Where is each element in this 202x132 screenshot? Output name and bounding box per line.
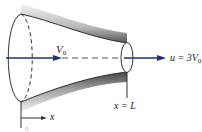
origin-label: 0: [25, 126, 28, 132]
x-axis-label: x: [50, 112, 54, 122]
outlet-velocity-subscript: 0: [198, 57, 202, 65]
inlet-velocity-label: V0: [56, 44, 66, 57]
x-axis-arrow-head-icon: [41, 116, 47, 120]
inlet-velocity-subscript: 0: [63, 49, 67, 57]
outlet-position-label: x = L: [114, 101, 136, 111]
outlet-velocity-label: u = 3V0: [170, 53, 201, 65]
nozzle-top-wall: [21, 4, 127, 43]
nozzle-bottom-wall: [21, 72, 127, 112]
inlet-velocity-symbol: V: [56, 43, 63, 55]
outlet-arrow-head-icon: [157, 55, 166, 61]
nozzle-diagram: [0, 0, 202, 132]
outlet-velocity-text: u = 3V: [170, 52, 198, 63]
